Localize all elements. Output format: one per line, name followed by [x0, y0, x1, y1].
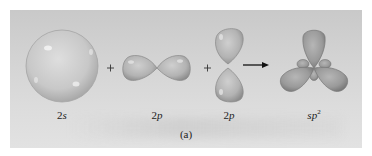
right-arrow-icon: [243, 62, 269, 68]
label-2p-vertical: 2p: [224, 109, 235, 121]
figure-caption: (a): [180, 128, 192, 140]
label-sp2: sp2: [307, 108, 320, 121]
label-2p-horizontal: 2p: [152, 109, 163, 121]
orbital-2p-vertical: [216, 29, 244, 102]
label-2s: 2s: [57, 109, 67, 121]
orbital-2s-sphere: [26, 30, 98, 102]
orbital-sp2-hybrid: [280, 30, 347, 91]
orbital-2p-horizontal: [123, 56, 191, 81]
plus-icon: [107, 65, 114, 72]
plus-icon: [204, 65, 211, 72]
